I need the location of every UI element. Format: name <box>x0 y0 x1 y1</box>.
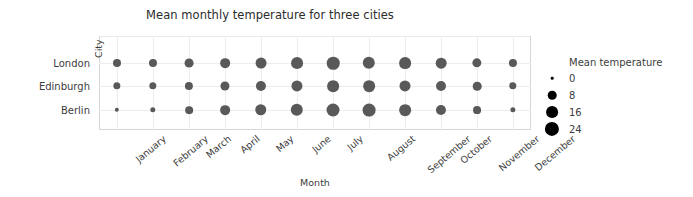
data-point <box>150 107 155 112</box>
legend-label: 16 <box>569 107 582 118</box>
data-point <box>509 82 516 89</box>
legend-bubble-icon <box>546 106 558 118</box>
y-tick-label-berlin: Berlin <box>61 105 90 116</box>
x-axis-title: Month <box>99 177 531 188</box>
data-point <box>327 104 340 117</box>
data-point <box>291 57 303 69</box>
legend-bubble-icon <box>545 122 559 136</box>
data-point <box>510 107 515 112</box>
data-point <box>399 57 411 69</box>
data-point <box>436 58 447 69</box>
data-point <box>185 82 193 90</box>
plot-area: City LondonEdinburghBerlin JanuaryFebrua… <box>99 36 531 130</box>
y-tick-label-london: London <box>53 58 90 69</box>
chart-title: Mean monthly temperature for three citie… <box>0 8 540 22</box>
data-point <box>473 106 481 114</box>
data-point <box>363 57 375 69</box>
y-tick-label-edinburgh: Edinburgh <box>39 81 90 92</box>
x-tick-label-march: March <box>204 133 233 160</box>
data-point <box>185 106 193 114</box>
y-axis-title: City <box>93 39 104 58</box>
legend-label: 0 <box>569 73 575 84</box>
x-tick-label-may: May <box>274 133 296 154</box>
data-point <box>256 81 266 91</box>
data-point <box>256 58 267 69</box>
data-point <box>509 59 517 67</box>
data-point <box>115 108 119 112</box>
data-point <box>149 59 157 67</box>
data-point <box>291 80 302 91</box>
plot-border-bottom <box>99 129 531 130</box>
gridline-horizontal <box>99 86 531 87</box>
data-point <box>220 105 230 115</box>
data-point <box>220 58 230 68</box>
data-point <box>363 104 376 117</box>
x-tick-label-june: June <box>310 133 333 155</box>
x-tick-label-january: January <box>133 133 168 165</box>
data-point <box>113 59 121 67</box>
x-tick-label-july: July <box>345 133 365 152</box>
data-point <box>327 80 339 92</box>
chart-figure: Mean monthly temperature for three citie… <box>0 0 693 197</box>
data-point <box>113 82 120 89</box>
legend-label: 24 <box>569 124 582 135</box>
data-point <box>291 104 303 116</box>
data-point <box>363 80 375 92</box>
legend-bubble-icon <box>551 77 554 80</box>
legend-label: 8 <box>569 90 575 101</box>
x-tick-label-april: April <box>238 133 262 155</box>
data-point <box>473 82 482 91</box>
data-point <box>472 58 481 67</box>
x-tick-label-august: August <box>385 133 418 163</box>
data-point <box>436 105 446 115</box>
gridline-horizontal <box>99 63 531 64</box>
plot-border-right <box>530 36 531 130</box>
data-point <box>399 104 411 116</box>
data-point <box>399 80 410 91</box>
legend-bubble-icon <box>548 91 557 100</box>
data-point <box>185 59 194 68</box>
legend-title: Mean temperature <box>569 57 662 68</box>
data-point <box>220 81 229 90</box>
gridline-horizontal <box>99 110 531 111</box>
data-point <box>436 81 446 91</box>
data-point <box>327 57 340 70</box>
data-point <box>255 104 266 115</box>
plot-border-top <box>99 36 531 37</box>
data-point <box>149 82 156 89</box>
